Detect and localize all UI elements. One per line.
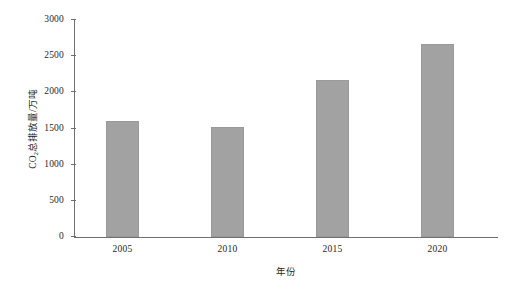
x-axis-tick-label: 2015 (323, 245, 343, 255)
bar[interactable] (421, 44, 454, 237)
y-axis-tick: 2000 (71, 91, 76, 92)
x-axis-tick-label: 2010 (218, 245, 238, 255)
y-axis-tick: 2500 (71, 55, 76, 56)
y-axis-title-prefix: CO (28, 155, 38, 168)
x-axis-tick-label: 2005 (113, 245, 133, 255)
y-axis-tick-label: 1500 (44, 124, 64, 134)
y-axis-tick: 500 (71, 200, 76, 201)
y-axis-tick-label: 1000 (44, 160, 64, 170)
y-axis-title: CO2总排放量/万吨 (26, 20, 40, 238)
y-axis-tick: 1000 (71, 164, 76, 165)
y-axis-tick: 0 (71, 236, 76, 237)
y-axis-tick-label: 2500 (44, 51, 64, 61)
x-axis-tick-label: 2020 (428, 245, 448, 255)
y-axis-tick: 1500 (71, 128, 76, 129)
bar[interactable] (211, 127, 244, 237)
plot-area: 0 500 1000 1500 2000 2500 3000 2005 2010… (74, 20, 498, 238)
y-axis-title-suffix: 总排放量/万吨 (28, 89, 38, 152)
y-axis-tick-label: 500 (49, 196, 64, 206)
y-axis-tick-label: 0 (59, 232, 64, 242)
x-axis-title: 年份 (74, 268, 498, 278)
bar-chart-figure: 0 500 1000 1500 2000 2500 3000 2005 2010… (0, 0, 509, 295)
y-axis-tick-label: 3000 (44, 15, 64, 25)
bar[interactable] (106, 121, 139, 237)
y-axis-tick: 3000 (71, 19, 76, 20)
bar[interactable] (316, 80, 349, 237)
y-axis-tick-label: 2000 (44, 88, 64, 98)
y-axis-title-subscript: 2 (32, 152, 40, 156)
